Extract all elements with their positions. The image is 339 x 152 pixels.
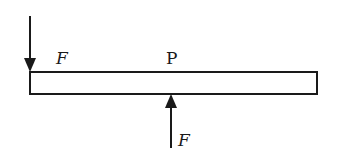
force-diagram: F P F: [0, 0, 339, 152]
rod: [30, 72, 317, 94]
force-label-top: F: [55, 48, 69, 68]
force-label-bottom: F: [177, 130, 191, 150]
point-label: P: [166, 48, 177, 68]
upward-force-arrow: [165, 94, 177, 148]
downward-force-arrow: [24, 16, 36, 72]
